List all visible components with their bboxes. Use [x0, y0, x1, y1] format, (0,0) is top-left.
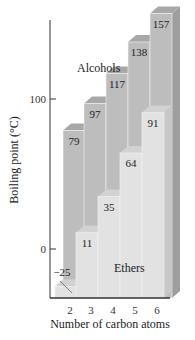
x-axis-title: Number of carbon atoms [50, 317, 170, 331]
alcohol-value-label: 97 [90, 108, 102, 120]
x-tick-label: 6 [154, 304, 160, 316]
ether-value-label: −25 [53, 266, 71, 278]
ether-value-label: 91 [148, 117, 159, 129]
ether-bar [142, 113, 164, 299]
ether-bar-side [164, 106, 172, 299]
y-tick-label-100: 100 [30, 93, 47, 105]
x-tick-label: 5 [132, 304, 138, 316]
alcohol-value-label: 138 [131, 46, 148, 58]
x-tick-label: 2 [67, 304, 73, 316]
bars-group: 7997117138157−2511356491 [53, 7, 180, 299]
x-tick-label: 4 [110, 304, 116, 316]
x-tick-labels: 2 3 4 5 6 [67, 304, 160, 316]
series-label-alcohols: Alcohols [77, 61, 121, 75]
alcohol-value-label: 157 [153, 18, 170, 30]
ether-bar [55, 287, 77, 299]
y-tick-label-0: 0 [41, 243, 47, 255]
ether-value-label: 11 [82, 237, 93, 249]
boiling-point-chart: 7997117138157−2511356491 100 0 2 3 4 5 6… [0, 0, 195, 340]
ether-value-label: 64 [126, 157, 138, 169]
ether-bar [120, 153, 142, 298]
alcohol-value-label: 79 [69, 135, 81, 147]
y-axis-title: Boiling point (°C) [7, 116, 21, 203]
alcohol-bar-side [172, 7, 180, 299]
x-tick-label: 3 [88, 304, 94, 316]
series-label-ethers: Ethers [114, 261, 145, 275]
ether-value-label: 35 [104, 201, 116, 213]
alcohol-value-label: 117 [109, 78, 126, 90]
